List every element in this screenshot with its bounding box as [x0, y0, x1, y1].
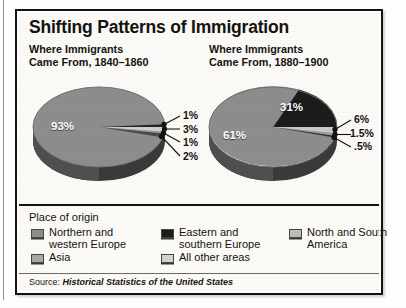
pie-1-main-value: 93% — [51, 120, 74, 132]
legend-label-eastern-southern-europe: Eastern and southern Europe — [179, 227, 260, 250]
figure-title: Shifting Patterns of Immigration — [29, 17, 289, 38]
legend-item-eastern-southern-europe[interactable]: Eastern and southern Europe — [161, 227, 286, 250]
chart-right-subtitle: Where Immigrants Came From, 1880–1900 — [209, 43, 328, 68]
legend-item-northern-western-europe[interactable]: Northern and western Europe — [31, 227, 151, 250]
legend-title: Place of origin — [29, 211, 99, 223]
chart-right-subtitle-line1: Where Immigrants — [209, 43, 303, 55]
source-title: Historical Statistics of the United Stat… — [63, 277, 234, 287]
page-margin — [0, 0, 2, 308]
pie-chart-1840-1860-graphic — [17, 71, 201, 189]
chart-left-subtitle: Where Immigrants Came From, 1840–1860 — [29, 43, 148, 68]
figure-panel: Shifting Patterns of Immigration Where I… — [15, 9, 383, 295]
legend-divider — [18, 204, 380, 206]
legend-item-all-other-areas[interactable]: All other areas — [161, 252, 301, 264]
legend-swatch-icon-all-other-areas — [161, 254, 174, 263]
legend-swatch-icon-eastern-southern-europe — [161, 229, 174, 238]
chart-left-subtitle-line1: Where Immigrants — [29, 43, 123, 55]
pie-2-callout-2: 1.5% — [350, 127, 374, 139]
pie-chart-1840-1860: 93% 1% 3% 1% 2% — [17, 71, 201, 189]
legend-label-north-south-america: North and South America — [307, 227, 387, 250]
source-divider — [18, 273, 380, 274]
pie-2-main-value: 61% — [223, 129, 246, 141]
chart-right-subtitle-line2: Came From, 1880–1900 — [209, 56, 328, 68]
pie-2-callout-3: .5% — [354, 140, 372, 152]
legend-label-asia: Asia — [49, 252, 70, 264]
pie-chart-1880-1900: 31% 61% 6% 1.5% .5% — [195, 71, 379, 189]
source-note: Source: Historical Statistics of the Uni… — [29, 277, 233, 287]
page-edge-line — [3, 0, 4, 300]
legend-swatch-icon-north-south-america — [289, 229, 302, 238]
pie-2-callout-1: 6% — [354, 113, 369, 125]
legend-swatch-icon-northern-western-europe — [31, 229, 44, 238]
legend-item-north-south-america[interactable]: North and South America — [289, 227, 389, 250]
chart-left-subtitle-line2: Came From, 1840–1860 — [29, 56, 148, 68]
legend-item-asia[interactable]: Asia — [31, 252, 151, 264]
legend-label-all-other-areas: All other areas — [179, 252, 250, 264]
legend-label-northern-western-europe: Northern and western Europe — [49, 227, 126, 250]
source-prefix: Source: — [29, 277, 63, 287]
legend-swatch-icon-asia — [31, 254, 44, 263]
pie-2-second-value: 31% — [280, 101, 303, 113]
